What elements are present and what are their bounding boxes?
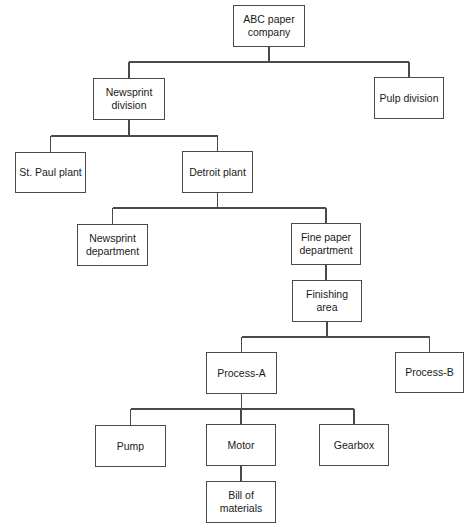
org-chart-canvas: ABC paper company Newsprint division Pul… [0, 0, 476, 531]
node-label: Process-A [217, 367, 265, 380]
node-process-b: Process-B [395, 352, 464, 393]
node-label: Finishing area [306, 288, 348, 314]
node-label: Pump [117, 440, 144, 453]
node-st-paul-plant: St. Paul plant [15, 152, 86, 193]
node-fine-paper-department: Fine paper department [291, 223, 361, 265]
node-newsprint-department: Newsprint department [77, 224, 148, 266]
node-abc-paper-company: ABC paper company [233, 5, 305, 47]
node-pump: Pump [95, 425, 166, 467]
node-motor: Motor [206, 424, 276, 466]
node-newsprint-division: Newsprint division [93, 78, 165, 120]
node-label: Pulp division [380, 92, 439, 105]
node-label: Detroit plant [189, 166, 246, 179]
node-label: Newsprint division [106, 86, 153, 112]
node-label: ABC paper company [243, 13, 294, 39]
node-process-a: Process-A [206, 352, 277, 394]
node-pulp-division: Pulp division [374, 77, 444, 119]
node-label: Fine paper department [299, 231, 352, 257]
node-label: Process-B [405, 366, 453, 379]
node-gearbox: Gearbox [319, 424, 389, 466]
node-label: St. Paul plant [19, 166, 81, 179]
node-label: Bill of materials [220, 489, 263, 515]
node-label: Motor [228, 439, 255, 452]
node-label: Newsprint department [86, 232, 139, 258]
node-label: Gearbox [334, 439, 374, 452]
node-bill-of-materials: Bill of materials [206, 481, 276, 523]
node-detroit-plant: Detroit plant [182, 151, 253, 193]
node-finishing-area: Finishing area [292, 280, 362, 322]
